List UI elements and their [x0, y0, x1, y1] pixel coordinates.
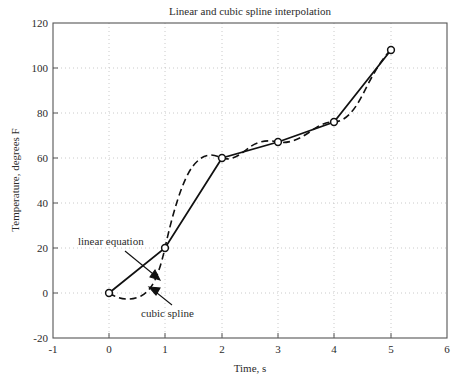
data-point	[162, 245, 169, 252]
linear-equation-line	[109, 50, 391, 293]
x-axis-label: Time, s	[234, 362, 267, 374]
interpolation-chart: Linear and cubic spline interpolation -1…	[0, 0, 465, 382]
ytick-label-120: 120	[32, 17, 49, 29]
ytick-label-0: 0	[43, 287, 49, 299]
data-point	[219, 155, 226, 162]
chart-title: Linear and cubic spline interpolation	[169, 5, 331, 17]
ytick-label-40: 40	[37, 197, 49, 209]
ytick-label-60: 60	[37, 152, 49, 164]
data-point	[388, 47, 395, 54]
annotation-linear-equation: linear equation	[78, 235, 144, 247]
xtick-label-3: 3	[275, 343, 281, 355]
ytick-label-100: 100	[32, 62, 49, 74]
ytick-label-80: 80	[37, 107, 49, 119]
xtick-label-6: 6	[444, 343, 450, 355]
xtick-label-0: 0	[106, 343, 112, 355]
data-point	[106, 290, 113, 297]
data-point-markers	[106, 47, 395, 297]
data-point	[331, 119, 338, 126]
data-point	[275, 139, 282, 146]
xtick-label--1: -1	[48, 343, 57, 355]
y-axis-label: Temperature, degrees F	[9, 128, 21, 231]
linear-equation-arrow-head	[150, 270, 160, 280]
ytick-label--20: -20	[33, 332, 48, 344]
xtick-label-2: 2	[219, 343, 225, 355]
cubic-spline-curve	[109, 50, 391, 299]
annotation-cubic-spline: cubic spline	[141, 307, 194, 319]
xtick-label-1: 1	[162, 343, 168, 355]
ytick-label-20: 20	[37, 242, 49, 254]
chart-figure: Linear and cubic spline interpolation -1…	[0, 0, 465, 382]
xtick-label-4: 4	[331, 343, 337, 355]
xtick-label-5: 5	[388, 343, 394, 355]
